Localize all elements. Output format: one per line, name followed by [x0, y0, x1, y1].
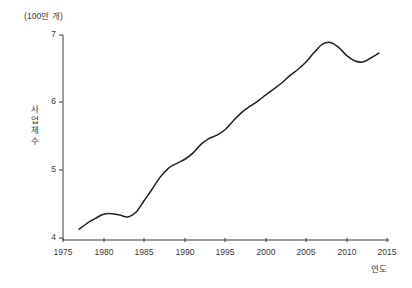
axis-lines [63, 35, 389, 240]
plot-area [0, 0, 412, 288]
y-axis-ticks [59, 35, 63, 238]
data-series-line [79, 42, 379, 229]
line-chart: (100만 개) 사업체 수 연도 7654 19751980198519901… [0, 0, 412, 288]
